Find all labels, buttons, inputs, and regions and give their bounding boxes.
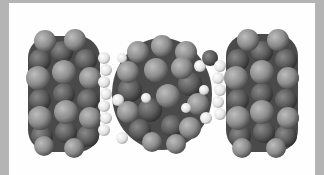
molecule-render <box>0 0 324 175</box>
central-cluster <box>112 35 218 154</box>
right-ring-cluster <box>224 29 299 158</box>
right-linker <box>212 60 226 120</box>
left-linker <box>98 52 112 136</box>
left-ring-cluster <box>26 29 101 158</box>
